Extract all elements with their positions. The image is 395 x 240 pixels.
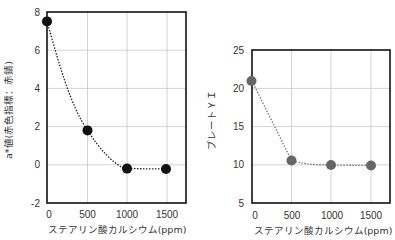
- left-trend-line: [47, 21, 167, 169]
- y-tick-label: 20: [233, 83, 245, 94]
- x-tick-label: 1000: [321, 210, 344, 221]
- y-tick-label: 4: [34, 83, 40, 94]
- right-x-ticks: 0 500 1000 1500: [252, 210, 382, 221]
- x-tick-label: 0: [46, 209, 52, 220]
- left-chart: 8 6 4 2 0 -2 0 500 1000 1500 ステアリン酸カルシウム…: [3, 7, 186, 236]
- left-y-ticks: 8 6 4 2 0 -2: [31, 7, 40, 209]
- data-point: [83, 125, 93, 135]
- y-tick-label: 5: [238, 198, 244, 209]
- x-tick-label: 500: [284, 210, 301, 221]
- data-point: [287, 156, 297, 166]
- y-tick-label: 8: [34, 7, 40, 18]
- right-y-axis-label: プレートＹＩ: [206, 90, 217, 150]
- left-plot-frame: [47, 12, 186, 203]
- right-x-axis-label: ステアリン酸カルシウム(ppm): [254, 225, 393, 236]
- right-chart: 25 20 15 10 5 0 500 1000 1500 ステアリン酸カルシウ…: [206, 45, 392, 237]
- y-tick-label: 10: [233, 159, 245, 170]
- left-x-axis-label: ステアリン酸カルシウム(ppm): [48, 224, 187, 235]
- right-data-points: [247, 76, 377, 171]
- y-tick-label: 25: [233, 45, 245, 56]
- figure: 8 6 4 2 0 -2 0 500 1000 1500 ステアリン酸カルシウム…: [0, 0, 395, 240]
- right-y-ticks: 25 20 15 10 5: [233, 45, 245, 209]
- x-tick-label: 1500: [360, 210, 383, 221]
- y-tick-label: 15: [233, 121, 245, 132]
- left-data-points: [42, 16, 171, 174]
- right-gridlines: [252, 50, 390, 203]
- data-point: [161, 164, 171, 174]
- left-gridlines: [47, 12, 186, 203]
- y-tick-label: 6: [34, 45, 40, 56]
- x-tick-label: 1500: [156, 209, 179, 220]
- y-tick-label: 2: [34, 121, 40, 132]
- y-tick-label: -2: [31, 198, 40, 209]
- data-point: [122, 164, 132, 174]
- left-x-ticks: 0 500 1000 1500: [46, 209, 178, 220]
- right-trend-line: [252, 81, 371, 166]
- y-tick-label: 0: [34, 159, 40, 170]
- data-point: [247, 76, 257, 86]
- data-point: [326, 160, 336, 170]
- x-tick-label: 500: [79, 209, 96, 220]
- data-point: [42, 16, 52, 26]
- x-tick-label: 1000: [116, 209, 139, 220]
- x-tick-label: 0: [252, 210, 258, 221]
- data-point: [366, 161, 376, 171]
- left-y-axis-label: a*値(赤色指標：赤錆): [3, 61, 14, 159]
